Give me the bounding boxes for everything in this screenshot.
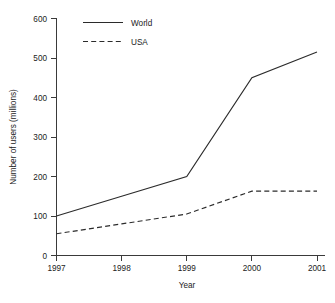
axis-spines [57,18,326,256]
x-tick-label: 1999 [178,264,197,273]
y-tick-label: 0 [42,252,47,261]
legend-label-world: World [131,19,153,28]
y-tick-label: 400 [33,94,47,103]
y-tick-label: 200 [33,173,47,182]
y-axis-title: Number of users (millions) [9,89,18,185]
chart-canvas: 600 500 400 300 200 100 0 1997 1998 1999… [0,0,335,303]
y-tick-label: 500 [33,54,47,63]
line-chart: 600 500 400 300 200 100 0 1997 1998 1999… [0,0,335,303]
x-tick-label: 1998 [112,264,131,273]
x-tick-label: 1997 [47,264,66,273]
y-tick-label: 600 [33,15,47,24]
y-axis-ticks: 600 500 400 300 200 100 0 [33,15,56,261]
legend-label-usa: USA [131,38,148,47]
series-line-usa [57,191,318,234]
series-line-world [57,52,318,216]
y-tick-label: 300 [33,133,47,142]
y-tick-label: 100 [33,212,47,221]
x-axis-ticks: 1997 1998 1999 2000 2001 [47,256,326,274]
data-series [57,52,318,234]
x-axis-title: Year [179,281,196,290]
x-tick-label: 2000 [243,264,262,273]
chart-legend: World USA [83,19,153,47]
x-tick-label: 2001 [308,264,327,273]
